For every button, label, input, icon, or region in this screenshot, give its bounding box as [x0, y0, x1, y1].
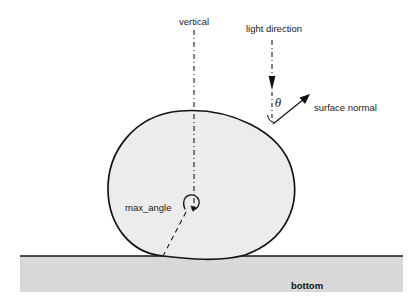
light-direction-arrowhead	[269, 76, 276, 90]
bottom-surface	[20, 256, 403, 292]
label-bottom: bottom	[291, 280, 323, 291]
label-light-direction: light direction	[246, 23, 302, 34]
label-surface-normal: surface normal	[314, 102, 377, 113]
droplet-outline	[108, 111, 295, 260]
droplet-shape	[108, 111, 295, 260]
surface-normal-arrowhead	[300, 94, 311, 104]
bottom-surface-fill	[20, 256, 403, 292]
right-angle-marker	[268, 115, 275, 123]
label-vertical: vertical	[179, 16, 209, 27]
right-angle-arc	[268, 115, 275, 123]
label-max-angle: max_angle	[125, 202, 171, 213]
label-theta: θ	[275, 95, 282, 110]
light-direction-axis	[269, 40, 276, 123]
diagram-canvas: vertical light direction surface normal …	[0, 0, 420, 305]
